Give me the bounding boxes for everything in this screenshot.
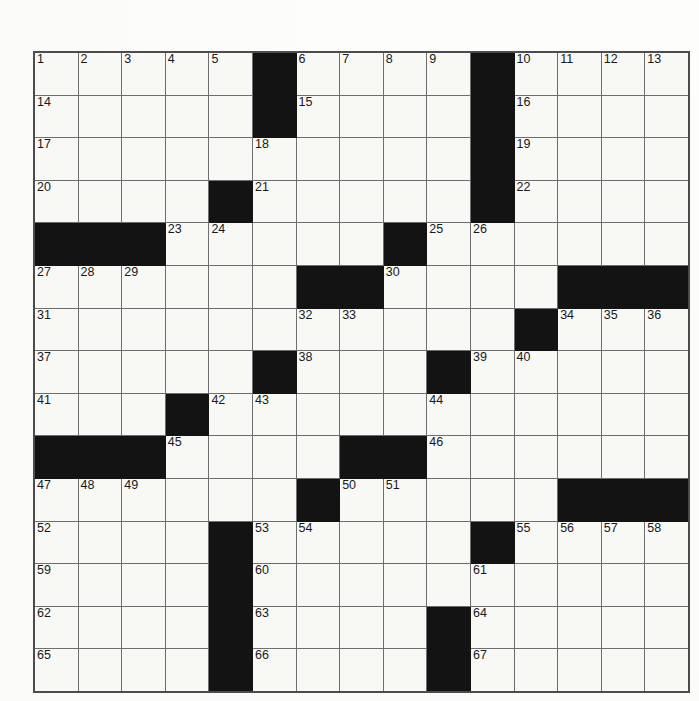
grid-cell[interactable]: [252, 308, 296, 351]
grid-cell[interactable]: [645, 564, 689, 607]
grid-cell[interactable]: [78, 606, 122, 649]
grid-cell-numbered[interactable]: 10: [514, 52, 558, 95]
grid-cell-numbered[interactable]: 17: [34, 138, 78, 181]
grid-cell[interactable]: [165, 606, 209, 649]
grid-cell-numbered[interactable]: 1: [34, 52, 78, 95]
grid-cell[interactable]: [383, 564, 427, 607]
grid-cell-numbered[interactable]: 55: [514, 521, 558, 564]
grid-cell-numbered[interactable]: 42: [209, 393, 253, 436]
grid-cell[interactable]: [427, 308, 471, 351]
grid-cell-numbered[interactable]: 44: [427, 393, 471, 436]
grid-cell-numbered[interactable]: 61: [470, 564, 514, 607]
grid-cell[interactable]: [601, 436, 645, 479]
grid-cell-numbered[interactable]: 3: [122, 52, 166, 95]
grid-cell-numbered[interactable]: 39: [470, 351, 514, 394]
grid-cell-numbered[interactable]: 34: [558, 308, 602, 351]
grid-cell[interactable]: [165, 138, 209, 181]
grid-cell[interactable]: [78, 649, 122, 692]
grid-cell-numbered[interactable]: 29: [122, 265, 166, 308]
grid-cell[interactable]: [601, 606, 645, 649]
grid-cell-numbered[interactable]: 16: [514, 95, 558, 138]
grid-cell[interactable]: [165, 478, 209, 521]
grid-cell[interactable]: [601, 393, 645, 436]
grid-cell[interactable]: [78, 180, 122, 223]
grid-cell[interactable]: [296, 393, 340, 436]
grid-cell[interactable]: [514, 649, 558, 692]
grid-cell[interactable]: [122, 649, 166, 692]
grid-cell[interactable]: [645, 138, 689, 181]
grid-cell[interactable]: [78, 95, 122, 138]
grid-cell[interactable]: [383, 393, 427, 436]
grid-cell[interactable]: [645, 351, 689, 394]
grid-cell[interactable]: [296, 649, 340, 692]
grid-cell[interactable]: [122, 606, 166, 649]
grid-cell[interactable]: [558, 393, 602, 436]
grid-cell[interactable]: [122, 351, 166, 394]
grid-cell-numbered[interactable]: 21: [252, 180, 296, 223]
grid-cell[interactable]: [252, 265, 296, 308]
grid-cell[interactable]: [601, 351, 645, 394]
grid-cell[interactable]: [340, 393, 384, 436]
grid-cell-numbered[interactable]: 58: [645, 521, 689, 564]
grid-cell[interactable]: [514, 223, 558, 266]
grid-cell-numbered[interactable]: 2: [78, 52, 122, 95]
grid-cell[interactable]: [122, 180, 166, 223]
grid-cell-numbered[interactable]: 26: [470, 223, 514, 266]
grid-cell[interactable]: [383, 308, 427, 351]
grid-cell[interactable]: [122, 138, 166, 181]
grid-cell[interactable]: [514, 564, 558, 607]
grid-cell[interactable]: [209, 95, 253, 138]
grid-cell[interactable]: [383, 180, 427, 223]
grid-cell-numbered[interactable]: 22: [514, 180, 558, 223]
grid-cell-numbered[interactable]: 50: [340, 478, 384, 521]
grid-cell-numbered[interactable]: 13: [645, 52, 689, 95]
grid-cell[interactable]: [296, 564, 340, 607]
grid-cell[interactable]: [645, 393, 689, 436]
grid-cell[interactable]: [122, 521, 166, 564]
grid-cell-numbered[interactable]: 46: [427, 436, 471, 479]
grid-cell-numbered[interactable]: 24: [209, 223, 253, 266]
grid-cell[interactable]: [340, 223, 384, 266]
grid-cell[interactable]: [470, 436, 514, 479]
grid-cell[interactable]: [252, 478, 296, 521]
grid-cell[interactable]: [383, 606, 427, 649]
grid-cell[interactable]: [470, 393, 514, 436]
grid-cell[interactable]: [340, 521, 384, 564]
grid-cell[interactable]: [427, 265, 471, 308]
grid-cell-numbered[interactable]: 67: [470, 649, 514, 692]
grid-cell[interactable]: [427, 478, 471, 521]
grid-cell-numbered[interactable]: 51: [383, 478, 427, 521]
grid-cell[interactable]: [514, 478, 558, 521]
grid-cell[interactable]: [558, 223, 602, 266]
grid-cell-numbered[interactable]: 6: [296, 52, 340, 95]
grid-cell[interactable]: [296, 180, 340, 223]
grid-cell-numbered[interactable]: 15: [296, 95, 340, 138]
grid-cell[interactable]: [340, 138, 384, 181]
grid-cell[interactable]: [601, 649, 645, 692]
grid-cell[interactable]: [78, 308, 122, 351]
grid-cell-numbered[interactable]: 60: [252, 564, 296, 607]
grid-cell-numbered[interactable]: 12: [601, 52, 645, 95]
grid-cell[interactable]: [340, 180, 384, 223]
grid-cell[interactable]: [558, 436, 602, 479]
grid-cell[interactable]: [296, 138, 340, 181]
grid-cell-numbered[interactable]: 28: [78, 265, 122, 308]
grid-cell[interactable]: [78, 393, 122, 436]
grid-cell[interactable]: [601, 564, 645, 607]
grid-cell[interactable]: [470, 478, 514, 521]
grid-cell[interactable]: [558, 351, 602, 394]
grid-cell[interactable]: [78, 564, 122, 607]
grid-cell-numbered[interactable]: 66: [252, 649, 296, 692]
grid-cell-numbered[interactable]: 31: [34, 308, 78, 351]
grid-cell-numbered[interactable]: 36: [645, 308, 689, 351]
grid-cell[interactable]: [514, 606, 558, 649]
grid-cell[interactable]: [645, 95, 689, 138]
grid-cell[interactable]: [252, 436, 296, 479]
grid-cell[interactable]: [78, 521, 122, 564]
grid-cell[interactable]: [601, 138, 645, 181]
grid-cell[interactable]: [601, 180, 645, 223]
grid-cell[interactable]: [296, 436, 340, 479]
grid-cell[interactable]: [209, 478, 253, 521]
grid-cell-numbered[interactable]: 9: [427, 52, 471, 95]
grid-cell[interactable]: [470, 308, 514, 351]
